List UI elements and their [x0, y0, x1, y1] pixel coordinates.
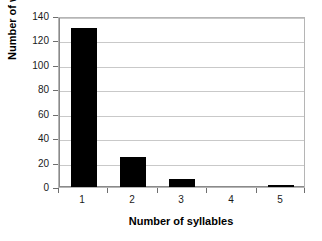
y-axis-tick-label: 60 [3, 110, 49, 120]
bar [169, 179, 195, 188]
x-axis-tick-label: 1 [62, 194, 102, 206]
y-axis-tick-label: 100 [3, 61, 49, 71]
x-axis-tick-label: 4 [211, 194, 251, 206]
x-axis-tick [58, 188, 59, 193]
x-axis-tick [304, 188, 305, 193]
bar-slot [108, 18, 157, 187]
plot-area [58, 17, 305, 188]
bar-series [59, 18, 304, 187]
bar [71, 28, 97, 187]
x-axis-title: Number of syllables [0, 215, 322, 227]
bar-slot [207, 18, 256, 187]
y-axis-tick-label: 140 [3, 12, 49, 22]
y-axis-tick-label: 40 [3, 134, 49, 144]
x-axis-tick-label: 2 [112, 194, 152, 206]
chart-screenshot: Number of words 140 120 100 80 60 40 20 … [0, 0, 322, 241]
y-axis-tick-label: 0 [3, 183, 49, 193]
x-axis-tick [206, 188, 207, 193]
x-axis-tick-label: 5 [260, 194, 300, 206]
y-axis-tick-label: 120 [3, 36, 49, 46]
y-axis-tick-label: 80 [3, 85, 49, 95]
x-axis-tick-label: 3 [161, 194, 201, 206]
x-axis-tick [107, 188, 108, 193]
bar [120, 157, 146, 187]
x-axis-tick [157, 188, 158, 193]
bar-slot [257, 18, 306, 187]
y-axis-title: Number of words [6, 0, 18, 60]
bar-slot [158, 18, 207, 187]
y-axis-tick-label: 20 [3, 159, 49, 169]
x-axis-tick [256, 188, 257, 193]
bar [268, 185, 294, 187]
bar-slot [59, 18, 108, 187]
